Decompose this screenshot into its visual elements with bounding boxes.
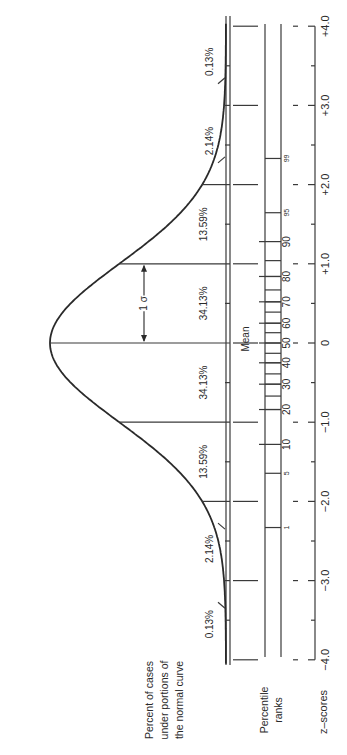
z-score-label: −3.0 [319, 570, 331, 592]
normal-curve: 1 σ [50, 16, 230, 665]
segment-percent-label: 2.14% [204, 127, 215, 155]
percentile-label-60: 60 [281, 317, 292, 329]
segment-percent-label: 34.13% [198, 366, 209, 400]
percentile-label-5: 5 [283, 471, 290, 475]
percentile-label-20: 20 [281, 404, 292, 416]
arrow-head-icon [141, 335, 147, 342]
percentile-ranks-label: ranks [272, 697, 284, 723]
row-labels: Percent of casesunder portions ofthe nor… [143, 661, 329, 740]
percentile-rank-scale: 151020304050607080909599Mean [233, 24, 298, 660]
z-score-label: 0 [319, 340, 331, 346]
normal-curve-diagram: 1 σ 0.13%2.14%13.59%34.13%34.13%13.59%2.… [0, 0, 347, 755]
z-score-label: +4.0 [319, 15, 331, 37]
pointer-arrow-icon [218, 523, 225, 529]
z-score-label: +1.0 [319, 253, 331, 275]
percent-cases-label: the normal curve [173, 661, 185, 739]
percent-cases-label: Percent of cases [143, 661, 155, 739]
z-score-label: −4.0 [319, 649, 331, 671]
bell-curve-line [50, 24, 226, 664]
segment-percent-label: 13.59% [198, 445, 209, 479]
z-score-label: +3.0 [319, 95, 331, 117]
z-score-axis: −4.0−3.0−2.0−1.00+1.0+2.0+3.0+4.0 [308, 15, 331, 670]
segment-percent-label: 0.13% [204, 48, 215, 76]
z-score-label: −2.0 [319, 491, 331, 513]
mean-label: Mean [240, 327, 251, 352]
z-score-label: +2.0 [319, 174, 331, 196]
percent-cases-label: under portions of [158, 661, 170, 740]
percentile-label-80: 80 [281, 270, 292, 282]
percentile-label-10: 10 [281, 438, 292, 450]
segment-percent-label: 34.13% [198, 286, 209, 320]
percentile-label-95: 95 [283, 209, 290, 217]
z-scores-label: z–scores [317, 689, 329, 734]
segment-percent-label: 0.13% [204, 610, 215, 638]
percentile-ranks-label: Percentile [258, 687, 270, 734]
pointer-arrow-icon [218, 157, 225, 163]
arrow-head-icon [141, 265, 147, 272]
percentile-label-99: 99 [283, 154, 290, 162]
z-score-label: −1.0 [319, 411, 331, 433]
pointer-arrow-icon [218, 78, 225, 84]
sigma-label: 1 σ [138, 295, 149, 310]
percentile-label-1: 1 [283, 525, 290, 529]
percentile-label-70: 70 [281, 296, 292, 308]
pointer-arrow-icon [218, 602, 225, 608]
segment-percent-label: 2.14% [204, 535, 215, 563]
percentile-label-30: 30 [281, 378, 292, 390]
normal-curve-svg: 1 σ 0.13%2.14%13.59%34.13%34.13%13.59%2.… [0, 0, 347, 755]
percentile-label-50: 50 [281, 337, 292, 349]
percentile-label-90: 90 [281, 236, 292, 248]
percentile-label-40: 40 [281, 357, 292, 369]
segment-percent-label: 13.59% [198, 207, 209, 241]
